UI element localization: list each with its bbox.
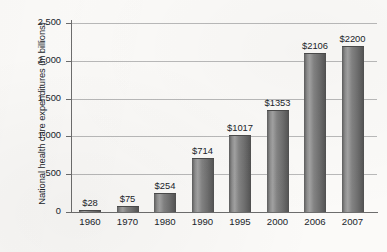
- bar-value-label: $254: [142, 180, 188, 191]
- y-tick-mark: [66, 212, 72, 213]
- gridline: [72, 23, 377, 24]
- bar: [267, 110, 289, 212]
- bar-value-label: $2200: [330, 33, 376, 44]
- y-tick-label: 1,000: [1, 130, 61, 140]
- y-tick-label: 500: [1, 168, 61, 178]
- gridline: [72, 99, 377, 100]
- bar: [154, 193, 176, 212]
- bar-value-label: $714: [180, 145, 226, 156]
- bar-value-label: $75: [105, 193, 151, 204]
- gridline: [72, 61, 377, 62]
- gridline: [72, 136, 377, 137]
- y-tick-label: 1,500: [1, 93, 61, 103]
- plot-area: [72, 23, 377, 212]
- y-axis-title: National health care expenditures (in bi…: [36, 4, 47, 224]
- bar: [304, 53, 326, 212]
- y-tick-label: 0: [1, 206, 61, 216]
- y-tick-mark: [66, 23, 72, 24]
- y-tick-mark: [66, 174, 72, 175]
- y-tick-mark: [66, 99, 72, 100]
- bar-value-label: $1017: [217, 122, 263, 133]
- y-tick-mark: [66, 61, 72, 62]
- y-tick-mark: [66, 136, 72, 137]
- bar: [229, 135, 251, 212]
- bar-value-label: $1353: [255, 97, 301, 108]
- y-tick-label: 2,500: [1, 17, 61, 27]
- bar: [79, 210, 101, 212]
- bar: [342, 46, 364, 212]
- bar: [192, 158, 214, 212]
- bar: [117, 206, 139, 212]
- x-tick-label: 2007: [330, 216, 376, 227]
- chart-page: National health care expenditures (in bi…: [0, 0, 387, 252]
- y-tick-label: 2,000: [1, 55, 61, 65]
- gridline: [72, 174, 377, 175]
- x-axis-line: [72, 212, 378, 213]
